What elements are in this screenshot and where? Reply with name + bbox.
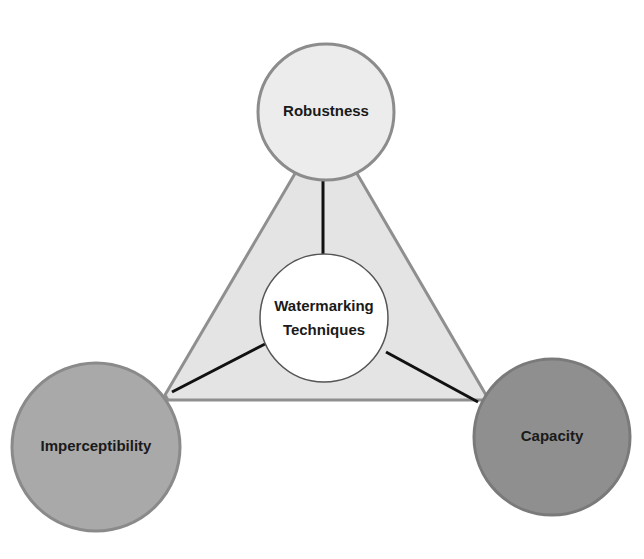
node-imperceptibility: Imperceptibility — [12, 363, 180, 531]
node-imperceptibility-label: Imperceptibility — [41, 437, 153, 454]
node-robustness: Robustness — [258, 44, 394, 180]
node-robustness-label: Robustness — [283, 102, 369, 119]
center-label-line1: Watermarking — [274, 297, 373, 314]
watermarking-tradeoff-diagram: Robustness Imperceptibility Capacity Wat… — [0, 0, 644, 559]
node-capacity: Capacity — [474, 359, 630, 515]
center-label-line2: Techniques — [283, 321, 365, 338]
node-center-watermarking: Watermarking Techniques — [260, 254, 388, 382]
node-capacity-label: Capacity — [521, 427, 584, 444]
